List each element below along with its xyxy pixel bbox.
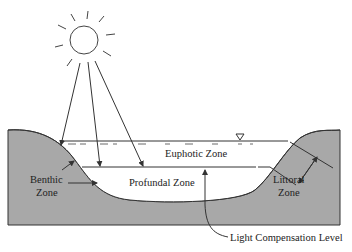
sun-icon — [55, 11, 115, 66]
benthic-zone-label-line2: Zone — [36, 187, 58, 198]
benthic-zone-label-line1: Benthic — [30, 174, 63, 185]
euphotic-zone-label: Euphotic Zone — [165, 148, 227, 159]
lake-zonation-diagram: Euphotic Zone Profundal Zone Benthic Zon… — [0, 0, 352, 252]
profundal-zone-label: Profundal Zone — [129, 177, 195, 188]
littoral-zone-label-line2: Zone — [278, 187, 300, 198]
water-level-triangle-icon — [236, 134, 244, 140]
littoral-zone-label-line1: Littoral — [273, 174, 305, 185]
light-compensation-label: Light Compensation Level — [230, 232, 343, 243]
